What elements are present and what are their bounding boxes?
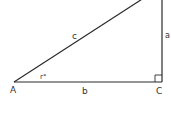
angle-r-label: r° <box>40 73 46 81</box>
side-c-label: c <box>72 31 77 41</box>
side-a-label: a <box>165 31 170 40</box>
vertex-c-label: C <box>156 86 162 96</box>
hypotenuse-c-line <box>14 0 150 82</box>
right-angle-marker-icon <box>155 75 162 82</box>
side-b-label: b <box>82 86 88 96</box>
right-triangle-diagram: c a b r° A C <box>0 0 171 114</box>
vertex-a-label: A <box>10 85 17 95</box>
triangle-figure: c a b r° A C <box>0 0 171 114</box>
